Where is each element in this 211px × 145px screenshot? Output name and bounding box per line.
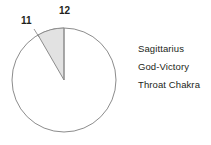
legend-line-attribute: God-Victory — [138, 58, 211, 76]
legend-line-sign: Sagittarius — [138, 40, 211, 58]
highlighted-slice — [38, 28, 64, 80]
hour-label-12: 12 — [59, 5, 70, 16]
legend-line-chakra: Throat Chakra — [138, 76, 211, 94]
clock-pie-figure: 11 12 Sagittarius God-Victory Throat Cha… — [0, 0, 211, 145]
hour-label-11: 11 — [21, 15, 32, 26]
legend-text-block: Sagittarius God-Victory Throat Chakra — [138, 40, 211, 94]
